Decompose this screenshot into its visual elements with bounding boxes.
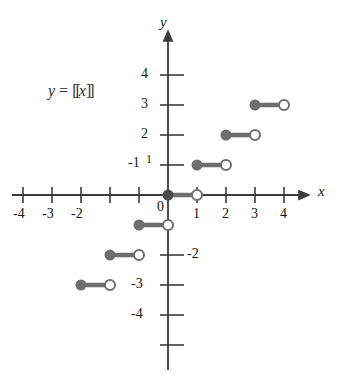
x-tick-label--4: -4 [13, 206, 25, 222]
y-tick-label-4: 4 [141, 66, 148, 82]
y-axis-name: y [160, 14, 167, 31]
bracket-close: ]] [86, 82, 93, 99]
equation-equals: = [59, 82, 68, 99]
closed-endpoint [76, 280, 87, 291]
x-axis-name: x [318, 183, 325, 200]
y-tick-label--3: -3 [131, 276, 143, 292]
y-tick-label-3: 3 [141, 96, 148, 112]
step-segment-ym1 [134, 220, 174, 231]
function-equation-label: y = [[x]] [48, 82, 93, 100]
closed-endpoint [221, 130, 232, 141]
x-axis [12, 187, 300, 203]
y-tick-label-1: 1 [146, 152, 152, 167]
x-tick-label-3: 3 [251, 206, 258, 222]
y-tick-label--4: -4 [131, 306, 143, 322]
step-segment-y2 [221, 130, 261, 141]
step-segment-y3 [250, 100, 290, 111]
open-endpoint [221, 160, 231, 170]
closed-endpoint [134, 220, 145, 231]
closed-endpoint [105, 250, 116, 261]
x-tick-label--1: -1 [128, 155, 140, 171]
open-endpoint [134, 250, 144, 260]
open-endpoint [250, 130, 260, 140]
x-tick-label-4: 4 [280, 206, 287, 222]
open-endpoint [279, 100, 289, 110]
x-tick-label-2: 2 [222, 206, 229, 222]
equation-lhs: y [48, 82, 55, 99]
open-endpoint [192, 190, 202, 200]
equation-arg: x [79, 82, 86, 99]
closed-endpoint [250, 100, 261, 111]
x-tick-label--3: -3 [42, 206, 54, 222]
closed-endpoint [163, 190, 174, 201]
origin-label: 0 [157, 199, 164, 215]
x-tick-label-1: 1 [193, 206, 200, 222]
bracket-open: [[ [72, 82, 79, 99]
coordinate-plot [0, 0, 347, 385]
step-segment-ym2 [105, 250, 145, 261]
floor-function-figure: y = [[x]] x y 4 3 2 1 -2 -3 -4 0 -4 -3 -… [0, 0, 347, 385]
x-tick-label--2: -2 [71, 206, 83, 222]
closed-endpoint [192, 160, 203, 171]
y-tick-label--2: -2 [187, 246, 199, 262]
step-segment-y0 [163, 190, 203, 201]
step-segment-y1 [192, 160, 232, 171]
open-endpoint [105, 280, 115, 290]
open-endpoint [163, 220, 173, 230]
step-segment-ym3 [76, 280, 116, 291]
y-tick-label-2: 2 [141, 126, 148, 142]
